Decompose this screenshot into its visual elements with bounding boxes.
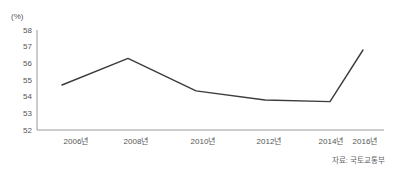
source-note: 자료: 국토교통부 — [332, 154, 385, 165]
line-chart-figure: (%) 58 57 56 55 54 53 52 2006년 2008년 201… — [0, 0, 395, 171]
x-tick-2016: 2016년 — [337, 135, 393, 146]
y-tick-53: 53 — [10, 109, 32, 118]
x-tick-2010: 2010년 — [175, 135, 231, 146]
x-tick-2006: 2006년 — [48, 135, 104, 146]
x-tick-2012: 2012년 — [241, 135, 297, 146]
x-tick-2008: 2008년 — [108, 135, 164, 146]
y-tick-55: 55 — [10, 76, 32, 85]
data-series-line — [62, 50, 363, 102]
y-tick-56: 56 — [10, 59, 32, 68]
y-tick-58: 58 — [10, 26, 32, 35]
y-tick-52: 52 — [10, 126, 32, 135]
y-tick-54: 54 — [10, 92, 32, 101]
y-tick-57: 57 — [10, 42, 32, 51]
